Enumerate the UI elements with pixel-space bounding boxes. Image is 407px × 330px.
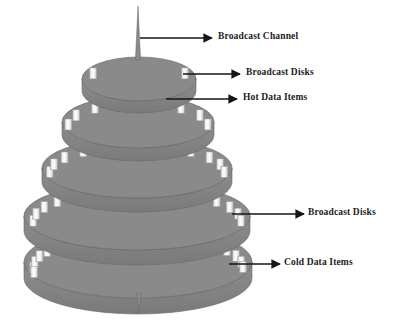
- data-item-rect[interactable]: [31, 267, 38, 278]
- label-broadcast-channel: Broadcast Channel: [218, 32, 298, 42]
- diagram-canvas: [0, 0, 407, 330]
- data-item-rect[interactable]: [226, 202, 233, 213]
- data-item-hot[interactable]: [73, 110, 80, 121]
- top-spire: [135, 6, 140, 60]
- data-item-rect[interactable]: [204, 119, 211, 130]
- data-item-warm[interactable]: [33, 208, 40, 219]
- data-item-warm[interactable]: [226, 202, 233, 213]
- data-item-rect[interactable]: [41, 202, 48, 213]
- data-item-warm[interactable]: [206, 152, 213, 163]
- label-broadcast-disks-top: Broadcast Disks: [246, 68, 314, 78]
- data-item-rect[interactable]: [50, 159, 57, 170]
- data-item-rect[interactable]: [73, 110, 80, 121]
- data-item-warm[interactable]: [61, 152, 68, 163]
- broadcast-disks-diagram: Broadcast Channel Broadcast Disks Hot Da…: [0, 0, 407, 330]
- data-item-warm[interactable]: [50, 159, 57, 170]
- data-item-rect[interactable]: [90, 68, 97, 79]
- label-cold-data-items: Cold Data Items: [284, 258, 353, 268]
- data-item-rect[interactable]: [65, 119, 72, 130]
- data-item-cold[interactable]: [31, 267, 38, 278]
- data-item-cold[interactable]: [36, 251, 43, 262]
- data-item-rect[interactable]: [196, 110, 203, 121]
- disk-stack: [24, 57, 252, 314]
- data-item-warm[interactable]: [237, 215, 244, 226]
- data-item-rect[interactable]: [36, 251, 43, 262]
- disk-1-top-face[interactable]: [82, 57, 196, 101]
- data-item-warm[interactable]: [221, 166, 228, 177]
- data-item-rect[interactable]: [237, 215, 244, 226]
- data-item-rect[interactable]: [33, 208, 40, 219]
- data-item-rect[interactable]: [221, 166, 228, 177]
- data-item-cold[interactable]: [239, 262, 246, 273]
- data-item-hot[interactable]: [90, 68, 97, 79]
- data-item-hot[interactable]: [196, 110, 203, 121]
- disk-1[interactable]: [82, 57, 196, 113]
- data-item-rect[interactable]: [61, 152, 68, 163]
- label-broadcast-disks-bottom: Broadcast Disks: [308, 208, 376, 218]
- data-item-rect[interactable]: [206, 152, 213, 163]
- data-item-warm[interactable]: [41, 202, 48, 213]
- data-item-hot[interactable]: [65, 119, 72, 130]
- label-hot-data-items: Hot Data Items: [243, 93, 307, 103]
- data-item-rect[interactable]: [239, 262, 246, 273]
- data-item-hot[interactable]: [204, 119, 211, 130]
